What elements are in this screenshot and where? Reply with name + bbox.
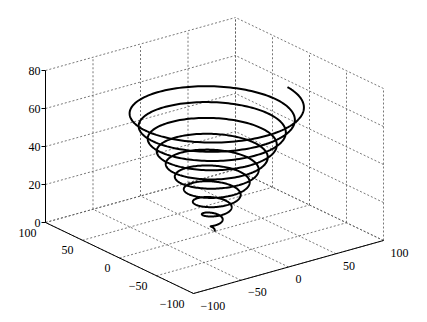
z-tick-label: 60	[29, 102, 41, 116]
y-tick-label: 100	[19, 226, 37, 240]
floor-grid-line-y	[83, 187, 273, 240]
y-tick-label: 0	[105, 261, 111, 275]
y-tick-label: −50	[129, 279, 148, 293]
x-axis-tick-labels: −100−50050100	[201, 246, 409, 313]
spiral-3d-plot: 020406080 −100−50050100 −100−50050100	[0, 0, 427, 322]
x-tick-label: −100	[201, 299, 226, 313]
x-tick-label: 100	[391, 246, 409, 260]
z-tick-label: 40	[29, 140, 41, 154]
y-tick-label: −100	[160, 297, 185, 311]
x-tick-label: 0	[296, 272, 302, 286]
spiral-line	[130, 86, 304, 231]
x-tick-label: −50	[248, 285, 267, 299]
spiral-series-path	[130, 86, 304, 231]
y-axis-tick-labels: −100−50050100	[19, 226, 185, 311]
z-tick-label: 20	[29, 178, 41, 192]
grid-lines	[46, 18, 384, 294]
floor-grid-line-x	[188, 183, 336, 254]
z-axis-tick-labels: 020406080	[29, 64, 46, 230]
x-tick-label: 50	[343, 259, 355, 273]
z-tick-label: 80	[29, 64, 41, 78]
y-axis-line	[46, 223, 194, 294]
y-tick-label: 50	[62, 243, 74, 257]
x-axis-line	[194, 241, 384, 294]
